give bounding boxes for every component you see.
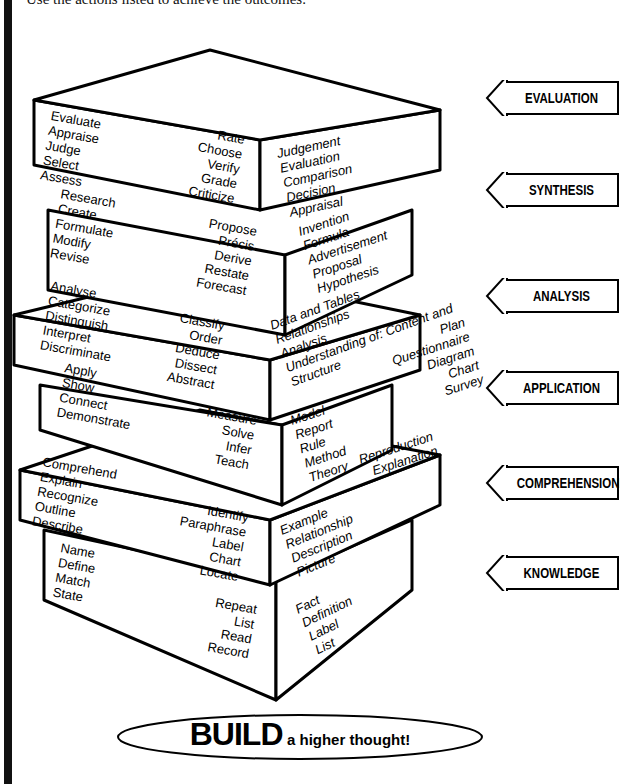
- level-arrow-application: APPLICATION: [485, 370, 620, 406]
- slogan-build: BUILD: [190, 716, 283, 752]
- level-arrow-comprehension: COMPREHENSION: [485, 465, 620, 501]
- slogan-tagline: a higher thought!: [287, 731, 410, 748]
- level-label: ANALYSIS: [517, 278, 606, 314]
- level-label: KNOWLEDGE: [517, 555, 606, 591]
- level-arrow-evaluation: EVALUATION: [485, 80, 620, 116]
- level-arrow-analysis: ANALYSIS: [485, 278, 620, 314]
- level-label: SYNTHESIS: [517, 172, 606, 208]
- level-arrow-synthesis: SYNTHESIS: [485, 172, 620, 208]
- level-label: COMPREHENSION: [517, 465, 606, 501]
- level-label: APPLICATION: [517, 370, 606, 406]
- level-label: EVALUATION: [517, 80, 606, 116]
- level-arrow-knowledge: KNOWLEDGE: [485, 555, 620, 591]
- slogan-ellipse: BUILD a higher thought!: [115, 712, 485, 762]
